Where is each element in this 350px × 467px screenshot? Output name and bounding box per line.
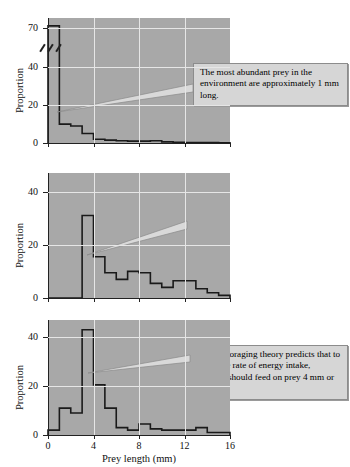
x-axis-tick: [139, 435, 140, 439]
y-axis-tick-label: 0: [16, 293, 38, 303]
gridline-vertical: [139, 18, 140, 143]
gridline-vertical: [94, 18, 95, 143]
annotation-text-1: The most abundant prey in the environmen…: [200, 67, 339, 100]
gridline-horizontal: [48, 337, 230, 338]
chart-panel-2: Optimal foraging theory predicts that to…: [0, 155, 350, 310]
x-axis-tick: [185, 143, 186, 147]
x-axis-tick: [94, 143, 95, 147]
figure-bluegill-prey-histograms: The most abundant prey in the environmen…: [0, 0, 350, 467]
y-axis-tick-label: 70: [16, 23, 38, 33]
x-axis-tick: [139, 298, 140, 302]
chart-panel-3: As predicted the most abundant prey in b…: [0, 310, 350, 467]
gridline-horizontal: [48, 245, 230, 246]
y-axis-1: [48, 18, 49, 143]
y-axis-tick-label: 40: [16, 332, 38, 342]
y-axis-tick: [43, 192, 48, 193]
x-axis-tick: [48, 143, 49, 147]
x-axis-tick-label: 8: [129, 441, 149, 451]
y-axis-tick-label: 40: [16, 187, 38, 197]
x-axis-title: Prey length (mm): [48, 453, 230, 464]
histogram-steps-2: [0, 155, 350, 310]
y-axis-tick: [43, 105, 48, 106]
gridline-horizontal: [48, 192, 230, 193]
y-axis-tick: [43, 67, 48, 68]
y-axis-tick-label: 0: [16, 138, 38, 148]
x-axis-tick: [48, 435, 49, 439]
y-axis-tick: [43, 28, 48, 29]
chart-panel-1: The most abundant prey in the environmen…: [0, 0, 350, 155]
x-axis-tick: [230, 143, 231, 147]
gridline-horizontal: [48, 28, 230, 29]
x-axis-tick-label: 16: [220, 441, 240, 451]
y-axis-tick: [43, 337, 48, 338]
x-axis-tick-label: 12: [175, 441, 195, 451]
y-axis-tick-label: 0: [16, 430, 38, 440]
x-axis-tick: [185, 435, 186, 439]
y-axis-tick: [43, 245, 48, 246]
x-axis-tick: [48, 298, 49, 302]
x-axis-tick: [230, 298, 231, 302]
x-axis-tick: [185, 298, 186, 302]
x-axis-tick-label: 4: [84, 441, 104, 451]
gridline-horizontal: [48, 67, 230, 68]
gridline-horizontal: [48, 105, 230, 106]
x-axis-tick: [230, 435, 231, 439]
x-axis-tick-label: 0: [38, 441, 58, 451]
y-axis-title: Proportion: [14, 365, 25, 410]
annotation-callout-1: The most abundant prey in the environmen…: [193, 63, 348, 106]
y-axis-tick: [43, 386, 48, 387]
x-axis-tick: [94, 435, 95, 439]
y-axis-title: Proportion: [14, 223, 25, 268]
x-axis-tick: [94, 298, 95, 302]
x-axis-tick: [139, 143, 140, 147]
y-axis-title: Proportion: [14, 68, 25, 113]
gridline-horizontal: [48, 386, 230, 387]
gridline-vertical: [185, 18, 186, 143]
